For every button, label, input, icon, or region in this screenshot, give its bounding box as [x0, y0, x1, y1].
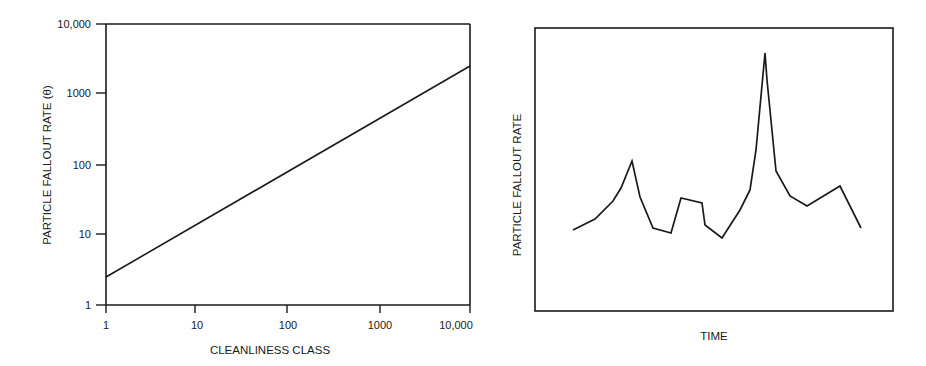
left-y-tick-label: 1000	[67, 87, 91, 99]
left-data-line	[106, 66, 470, 277]
left-y-tick-label: 1	[85, 299, 91, 311]
right-plot-frame	[535, 28, 893, 311]
left-y-axis-label: PARTICLE FALLOUT RATE (θ)	[41, 85, 53, 245]
left-x-tick-label: 1000	[368, 319, 392, 331]
right-x-axis-label: TIME	[700, 330, 728, 342]
left-y-ticks	[96, 24, 106, 305]
left-x-axis-label: CLEANLINESS CLASS	[210, 344, 330, 356]
left-x-ticks	[106, 305, 470, 313]
right-chart-time-series: TIME PARTICLE FALLOUT RATE	[490, 0, 926, 366]
left-x-tick-label: 10	[191, 319, 203, 331]
left-x-tick-label: 1	[103, 319, 109, 331]
left-y-tick-label: 100	[73, 159, 91, 171]
left-y-tick-label: 10	[79, 228, 91, 240]
right-y-axis-label: PARTICLE FALLOUT RATE	[511, 114, 523, 257]
left-chart-log-log: 10,000 1000 100 10 1 1 10 100 1000 10,00…	[0, 0, 490, 366]
right-data-line	[573, 53, 861, 238]
left-y-tick-label: 10,000	[57, 18, 91, 30]
left-x-tick-label: 10,000	[439, 319, 473, 331]
left-x-tick-label: 100	[279, 319, 297, 331]
left-plot-frame	[106, 24, 470, 305]
